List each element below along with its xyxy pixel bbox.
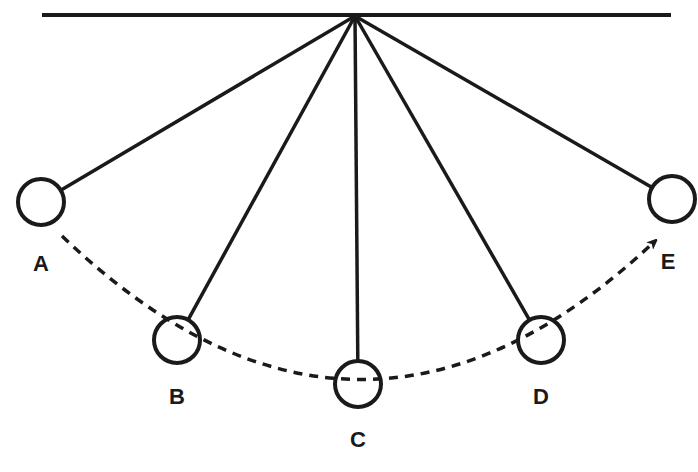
label-e: E bbox=[661, 249, 676, 274]
pendulum-diagram: ABCDE bbox=[0, 0, 698, 472]
string-a bbox=[61, 16, 355, 190]
label-a: A bbox=[33, 251, 49, 276]
label-c: C bbox=[350, 427, 366, 452]
label-b: B bbox=[169, 384, 185, 409]
string-b bbox=[188, 16, 355, 320]
string-e bbox=[355, 16, 652, 188]
bob-c bbox=[335, 361, 381, 407]
bob-a bbox=[18, 179, 64, 225]
bob-d bbox=[518, 317, 564, 363]
label-d: D bbox=[533, 384, 549, 409]
position-labels: ABCDE bbox=[33, 249, 675, 452]
string-d bbox=[355, 16, 530, 320]
pendulum-svg: ABCDE bbox=[0, 0, 698, 472]
bob-e bbox=[649, 176, 695, 222]
string-c bbox=[355, 16, 358, 361]
